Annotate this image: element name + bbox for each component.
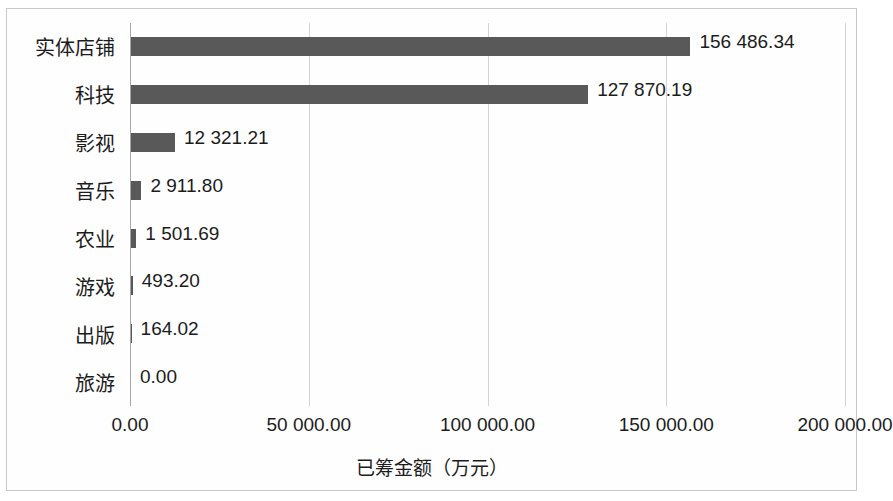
bar[interactable] — [131, 181, 141, 200]
chart-frame: 实体店铺科技影视音乐农业游戏出版旅游 156 486.34127 870.191… — [6, 8, 857, 491]
bar-rows: 156 486.34127 870.1912 321.212 911.801 5… — [130, 23, 845, 406]
y-axis-category-label: 影视 — [75, 119, 115, 167]
bar-row[interactable]: 493.20 — [130, 262, 845, 310]
x-axis-tick-label: 150 000.00 — [619, 413, 714, 437]
bar[interactable] — [131, 37, 690, 56]
y-axis-category-labels: 实体店铺科技影视音乐农业游戏出版旅游 — [7, 23, 123, 406]
bar-row[interactable]: 2 911.80 — [130, 167, 845, 215]
bar-value-label: 127 870.19 — [597, 80, 692, 99]
bar[interactable] — [131, 324, 132, 343]
y-axis-category-label: 科技 — [75, 71, 115, 119]
bar-value-label: 493.20 — [142, 271, 200, 290]
bar-value-label: 0.00 — [140, 367, 177, 386]
y-axis-category-label: 出版 — [75, 310, 115, 358]
bar-row[interactable]: 1 501.69 — [130, 215, 845, 263]
bar-row[interactable]: 156 486.34 — [130, 23, 845, 71]
bar-value-label: 2 911.80 — [150, 176, 223, 195]
bar-row[interactable]: 0.00 — [130, 358, 845, 406]
bar[interactable] — [131, 85, 588, 104]
x-axis-tick-label: 0.00 — [112, 413, 149, 437]
y-axis-category-label: 游戏 — [75, 262, 115, 310]
y-axis-category-label: 实体店铺 — [35, 23, 115, 71]
bar-value-label: 12 321.21 — [184, 128, 269, 147]
y-axis-category-label: 音乐 — [75, 167, 115, 215]
x-axis-title: 已筹金额（万元） — [7, 453, 856, 480]
x-axis-tick-label: 50 000.00 — [266, 413, 351, 437]
bar-value-label: 1 501.69 — [145, 224, 219, 243]
bar-row[interactable]: 164.02 — [130, 310, 845, 358]
bar[interactable] — [131, 276, 133, 295]
plot-area: 156 486.34127 870.1912 321.212 911.801 5… — [130, 23, 845, 406]
bar[interactable] — [131, 133, 175, 152]
y-axis-category-label: 农业 — [75, 215, 115, 263]
bar-row[interactable]: 127 870.19 — [130, 71, 845, 119]
x-axis-tick-label: 200 000.00 — [797, 413, 892, 437]
x-axis-tick-labels: 0.0050 000.00100 000.00150 000.00200 000… — [130, 413, 845, 439]
bar[interactable] — [131, 229, 136, 248]
bar-row[interactable]: 12 321.21 — [130, 119, 845, 167]
gridline — [845, 23, 846, 406]
bar-value-label: 164.02 — [141, 319, 199, 338]
x-axis-tick-label: 100 000.00 — [440, 413, 535, 437]
y-axis-category-label: 旅游 — [75, 358, 115, 406]
bar-value-label: 156 486.34 — [699, 32, 794, 51]
